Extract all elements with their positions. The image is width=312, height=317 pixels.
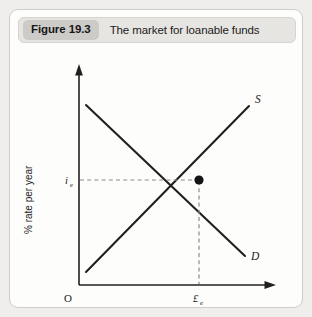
y-axis-arrowhead [75, 64, 83, 76]
demand-curve-label: D [250, 250, 260, 262]
y-axis-tick-label: i e [65, 175, 73, 189]
figure-header: Figure 19.3 The market for loanable fund… [18, 17, 296, 43]
figure-panel: Figure 19.3 The market for loanable fund… [9, 9, 303, 308]
x-axis-tick-label-text: £ [193, 293, 199, 304]
y-axis-title: % rate per year [23, 165, 34, 234]
equilibrium-point-marker [194, 175, 203, 184]
x-axis-arrowhead [265, 281, 277, 289]
y-axis [75, 64, 83, 285]
chart-plot-area: % rate per year S D i e O [10, 44, 302, 307]
x-axis [79, 281, 276, 289]
figure-caption: The market for loanable funds [110, 24, 260, 36]
figure-number-badge: Figure 19.3 [23, 20, 99, 41]
x-axis-tick-label-subscript: e [200, 299, 203, 307]
origin-label: O [64, 292, 72, 304]
y-axis-tick-label-subscript: e [70, 181, 73, 189]
x-axis-tick-label: £ e [193, 293, 203, 307]
supply-curve-label: S [255, 93, 261, 105]
supply-demand-chart: % rate per year S D i e O [10, 44, 302, 307]
y-axis-tick-label-text: i [65, 175, 68, 186]
